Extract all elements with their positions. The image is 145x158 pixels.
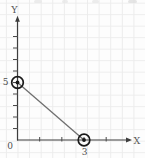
point-marker-dot bbox=[82, 138, 86, 142]
data-line bbox=[18, 83, 85, 141]
origin-label: 0 bbox=[7, 142, 13, 151]
x-axis-arrowhead-icon bbox=[126, 138, 132, 143]
y-tick-label-5: 5 bbox=[3, 77, 9, 86]
coordinate-plane-figure: Y X 5 0 3 bbox=[0, 0, 145, 158]
point-marker-dot bbox=[16, 81, 20, 85]
y-axis-arrowhead-icon bbox=[15, 16, 20, 22]
plot-canvas bbox=[0, 0, 145, 158]
y-axis-label: Y bbox=[11, 5, 17, 15]
x-tick-label-3: 3 bbox=[82, 147, 88, 156]
x-axis-label: X bbox=[134, 136, 141, 146]
